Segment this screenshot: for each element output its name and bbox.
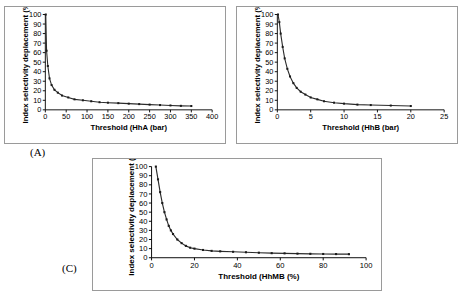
y-tick-label: 10: [265, 96, 273, 105]
x-tick-label: 400: [206, 112, 218, 121]
y-tick-label: 40: [139, 217, 147, 226]
data-point: [335, 253, 337, 255]
y-tick-label: 30: [265, 77, 273, 86]
data-point: [370, 104, 372, 106]
x-tick-label: 25: [440, 112, 448, 121]
data-point: [170, 229, 172, 231]
y-tick-label: 60: [265, 48, 273, 57]
data-point: [57, 92, 59, 94]
data-point: [258, 252, 260, 254]
y-tick-label: 30: [33, 77, 41, 86]
data-point: [166, 218, 168, 220]
y-tick-label: 60: [139, 199, 147, 208]
data-point: [410, 105, 412, 107]
plot-area-a: 0102030405060708090100050100150200250300…: [5, 7, 225, 143]
data-point: [48, 77, 50, 79]
x-tick-label: 15: [373, 112, 381, 121]
data-point: [284, 252, 286, 254]
chart-panel-c: 0102030405060708090100020406080100Thresh…: [92, 158, 382, 291]
x-tick-label: 0: [149, 261, 153, 270]
x-tick-label: 100: [81, 112, 93, 121]
data-point: [323, 100, 325, 102]
data-point: [189, 247, 191, 249]
y-tick-label: 70: [265, 39, 273, 48]
y-tick-label: 10: [139, 244, 147, 253]
data-point: [53, 89, 55, 91]
data-point: [47, 65, 49, 67]
y-tick-label: 70: [33, 39, 41, 48]
y-tick-label: 10: [33, 96, 41, 105]
x-tick-label: 100: [360, 261, 373, 270]
data-point: [159, 104, 161, 106]
y-tick-label: 80: [33, 29, 41, 38]
data-point: [316, 98, 318, 100]
data-point: [185, 245, 187, 247]
x-tick-label: 20: [407, 112, 415, 121]
x-tick-label: 40: [233, 261, 241, 270]
y-tick-label: 40: [265, 67, 273, 76]
y-tick-label: 40: [33, 67, 41, 76]
x-tick-label: 300: [164, 112, 176, 121]
y-tick-label: 20: [265, 86, 273, 95]
data-point: [245, 251, 247, 253]
panel-label-c: (C): [62, 262, 77, 274]
y-tick-label: 80: [139, 180, 147, 189]
y-tick-label: 50: [33, 58, 41, 67]
data-point: [219, 250, 221, 252]
y-tick-label: 90: [265, 20, 273, 29]
series-line: [156, 167, 349, 255]
x-tick-label: 80: [319, 261, 327, 270]
data-point: [310, 96, 312, 98]
data-point: [190, 105, 192, 107]
data-point: [172, 233, 174, 235]
y-tick-label: 100: [261, 10, 273, 19]
data-point: [356, 104, 358, 106]
x-tick-label: 60: [276, 261, 284, 270]
data-point: [157, 178, 159, 180]
data-point: [309, 253, 311, 255]
data-point: [333, 102, 335, 104]
plot-area-b: 01020304050607080901000510152025Threshol…: [237, 7, 457, 143]
data-point: [169, 104, 171, 106]
data-point: [46, 50, 48, 52]
y-tick-label: 90: [33, 20, 41, 29]
y-tick-label: 0: [37, 105, 41, 114]
data-point: [390, 105, 392, 107]
data-point: [193, 248, 195, 250]
series-line: [46, 15, 192, 107]
data-point: [161, 202, 163, 204]
data-point: [180, 105, 182, 107]
data-point: [280, 33, 282, 35]
y-tick-label: 80: [265, 29, 273, 38]
data-point: [163, 211, 165, 213]
x-tick-label: 0: [275, 112, 279, 121]
data-point: [300, 91, 302, 93]
data-point: [51, 84, 53, 86]
data-point: [176, 238, 178, 240]
data-point: [82, 99, 84, 101]
data-point: [67, 96, 69, 98]
data-point: [286, 68, 288, 70]
data-point: [117, 102, 119, 104]
data-point: [181, 242, 183, 244]
data-point: [107, 102, 109, 104]
data-point: [271, 252, 273, 254]
x-tick-label: 150: [102, 112, 114, 121]
x-tick-label: 200: [123, 112, 135, 121]
data-point: [296, 253, 298, 255]
data-point: [74, 98, 76, 100]
data-point: [155, 166, 157, 168]
data-point: [277, 13, 279, 15]
y-tick-label: 90: [139, 171, 147, 180]
y-tick-label: 60: [33, 48, 41, 57]
data-point: [90, 100, 92, 102]
x-tick-label: 10: [340, 112, 348, 121]
data-point: [282, 46, 284, 48]
x-tick-label: 250: [143, 112, 155, 121]
y-tick-label: 20: [139, 235, 147, 244]
y-tick-label: 50: [139, 208, 147, 217]
y-axis-title: Index selectivity deplacement (%): [127, 159, 136, 276]
data-point: [284, 57, 286, 59]
y-tick-label: 100: [135, 162, 148, 171]
y-tick-label: 0: [269, 105, 273, 114]
